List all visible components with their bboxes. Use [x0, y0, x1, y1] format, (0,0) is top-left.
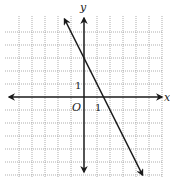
coordinate-plane: x y O 1 1: [0, 0, 170, 179]
origin-label: O: [72, 101, 81, 114]
y-tick-label: 1: [75, 80, 81, 91]
y-axis-label: y: [79, 1, 87, 14]
x-tick-label: 1: [95, 102, 101, 113]
x-axis-label: x: [164, 91, 170, 104]
